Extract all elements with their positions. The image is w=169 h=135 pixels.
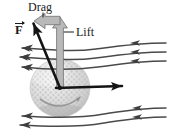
lift-label: Lift — [76, 26, 94, 38]
vector-overbar-icon — [15, 22, 23, 25]
diagram-canvas — [0, 0, 169, 135]
ball-center-point — [58, 86, 62, 90]
drag-label: Drag — [28, 1, 52, 13]
force-vector-label: F — [15, 22, 23, 37]
force-diagram-figure: Drag Lift F — [0, 0, 169, 135]
force-symbol-text: F — [15, 23, 23, 37]
